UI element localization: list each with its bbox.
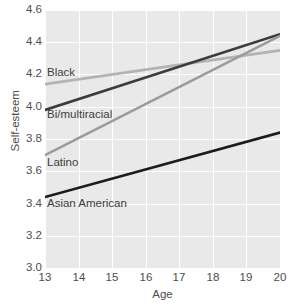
- y-axis-title: Self-esteem: [10, 61, 22, 181]
- plot-area: BlackBi/multiracialLatinoAsian American: [45, 10, 280, 268]
- series-line-latino: [45, 36, 280, 155]
- series-line-bi-multiracial: [45, 34, 280, 110]
- x-tick-label-20: 20: [260, 272, 291, 284]
- series-line-asian-american: [45, 133, 280, 198]
- y-tick-label-3.4: 3.4: [2, 198, 42, 210]
- y-tick-label-4.6: 4.6: [2, 4, 42, 16]
- x-axis-title: Age: [45, 289, 280, 301]
- y-tick-label-3.2: 3.2: [2, 230, 42, 242]
- series-label-black: Black: [47, 67, 75, 79]
- series-line-black: [45, 50, 280, 84]
- y-tick-label-3.6: 3.6: [2, 165, 42, 177]
- x-axis-tick-labels: 1314151617181920: [45, 272, 280, 288]
- series-label-bi-multiracial: Bi/multiracial: [47, 109, 112, 121]
- series-lines: [45, 10, 280, 268]
- y-tick-label-4.0: 4.0: [2, 101, 42, 113]
- series-label-latino: Latino: [47, 157, 78, 169]
- y-tick-label-3.8: 3.8: [2, 133, 42, 145]
- self-esteem-by-age-chart: BlackBi/multiracialLatinoAsian American …: [0, 0, 291, 306]
- series-label-asian-american: Asian American: [47, 198, 127, 210]
- y-tick-label-4.2: 4.2: [2, 68, 42, 80]
- y-tick-label-4.4: 4.4: [2, 36, 42, 48]
